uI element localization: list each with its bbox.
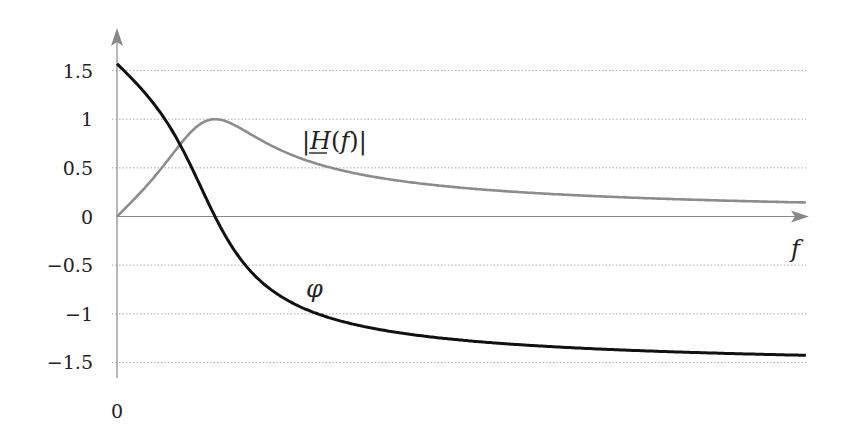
y-tick-label: −1 xyxy=(65,303,93,325)
y-tick-labels: 1.510.50−0.5−1−1.5 xyxy=(47,60,93,374)
chart-canvas: 1.510.50−0.5−1−1.5 |H(f)| φ f 0 xyxy=(0,0,848,440)
magnitude-curve xyxy=(117,119,806,216)
y-tick-label: 1.5 xyxy=(63,60,93,82)
y-tick-label: −1.5 xyxy=(47,351,93,373)
y-tick-label: 0 xyxy=(81,206,93,228)
y-tick-label: −0.5 xyxy=(47,254,93,276)
x-origin-label: 0 xyxy=(111,400,123,422)
phi-label: φ xyxy=(306,275,323,303)
magnitude-label: |H(f)| xyxy=(302,127,367,156)
phase-curve xyxy=(117,64,806,356)
x-axis-label: f xyxy=(789,235,804,263)
y-tick-label: 0.5 xyxy=(63,157,93,179)
y-tick-label: 1 xyxy=(81,108,93,130)
